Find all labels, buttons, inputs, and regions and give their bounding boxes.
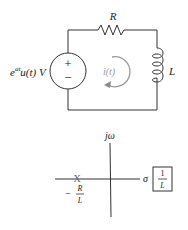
pole-label-den: L xyxy=(77,196,83,205)
source-plus: + xyxy=(64,56,71,71)
wire-top-left xyxy=(68,30,98,53)
wire-top-right xyxy=(127,30,157,48)
gain-box-den: L xyxy=(159,181,165,190)
horizontal-axis-label: σ xyxy=(143,173,149,184)
source-minus: − xyxy=(64,70,71,85)
vertical-axis-label: jω xyxy=(103,130,115,141)
pole-zero-plot xyxy=(55,143,140,217)
pole-marker-icon: X xyxy=(73,173,81,184)
current-label: i(t) xyxy=(103,66,116,78)
inductor-icon xyxy=(153,48,164,88)
circuit-and-pole-zero-diagram: + − eatu(t) V R L i(t) jω σ X − R L 1 L xyxy=(0,0,188,230)
resistor-label: R xyxy=(109,10,117,22)
pole-label-sign: − xyxy=(65,188,71,199)
pole-label-num: R xyxy=(77,184,83,193)
source-label: eatu(t) V xyxy=(10,65,47,79)
gain-box-num: 1 xyxy=(161,169,165,178)
wire-bottom xyxy=(68,88,157,110)
vertical-axis xyxy=(110,143,111,217)
inductor-label: L xyxy=(168,65,175,77)
resistor-icon xyxy=(98,25,127,35)
